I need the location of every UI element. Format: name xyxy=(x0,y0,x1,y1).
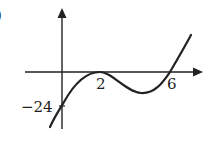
y-tick-value: 24 xyxy=(34,98,53,116)
x-tick-label-6: 6 xyxy=(167,75,177,93)
x-axis-arrow-icon xyxy=(193,68,203,77)
y-tick-label-minus-24: −24 xyxy=(21,98,53,116)
y-axis-arrow-icon xyxy=(58,8,67,18)
cubic-graph: ) 2 6 −24 xyxy=(0,0,211,141)
x-tick-label-2: 2 xyxy=(96,75,106,93)
part-label: ) xyxy=(0,6,2,24)
